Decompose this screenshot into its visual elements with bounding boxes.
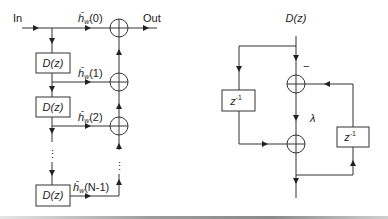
delay-block-label: D(z) [43,189,64,201]
arrow-icon [85,25,91,31]
arrow-icon [262,141,268,147]
arrow-icon [236,66,242,72]
output-label: Out [143,12,161,24]
arrow-icon [49,128,55,134]
delay-block-label: D(z) [43,101,64,113]
tap-label-n-minus-1: ĥw(N-1) [73,181,109,194]
summing-junction-icon [110,19,128,37]
fir-filter-diagram: In Out D(z) D(z) ⋮ D(z) [13,12,161,206]
arrow-icon [85,193,91,199]
arrow-icon [143,25,149,31]
arrow-icon [324,81,330,87]
minus-sign: − [303,60,309,72]
arrow-icon [293,115,299,121]
summing-junction-icon [287,75,305,93]
ellipsis: ⋮ [47,148,58,160]
arrow-icon [116,103,122,109]
arrow-icon [49,86,55,92]
tap-label-2: ĥw(2) [78,111,103,124]
arrow-icon [116,179,122,185]
ellipsis: ⋮ [114,160,125,172]
arrow-icon [293,55,299,61]
arrow-icon [49,170,55,176]
arrow-icon [350,160,356,166]
input-label: D(z) [286,12,307,24]
delay-block-label: D(z) [43,57,64,69]
arrow-icon [293,178,299,184]
tap-label-1: ĥw(1) [78,67,103,80]
arrow-icon [116,49,122,55]
input-label: In [13,12,22,24]
summing-junction-icon [287,135,305,153]
arrow-icon [33,25,39,31]
summing-junction-icon [110,117,128,135]
delay-element-diagram: D(z) − λ z-1 z-1 [222,12,369,198]
summing-junction-icon [110,73,128,91]
arrow-icon [116,143,122,149]
bottom-divider [0,216,388,219]
diagram-canvas: In Out D(z) D(z) ⋮ D(z) [0,0,388,219]
tap-label-0: ĥw(0) [78,12,103,25]
arrow-icon [49,38,55,44]
gain-label: λ [309,112,315,124]
